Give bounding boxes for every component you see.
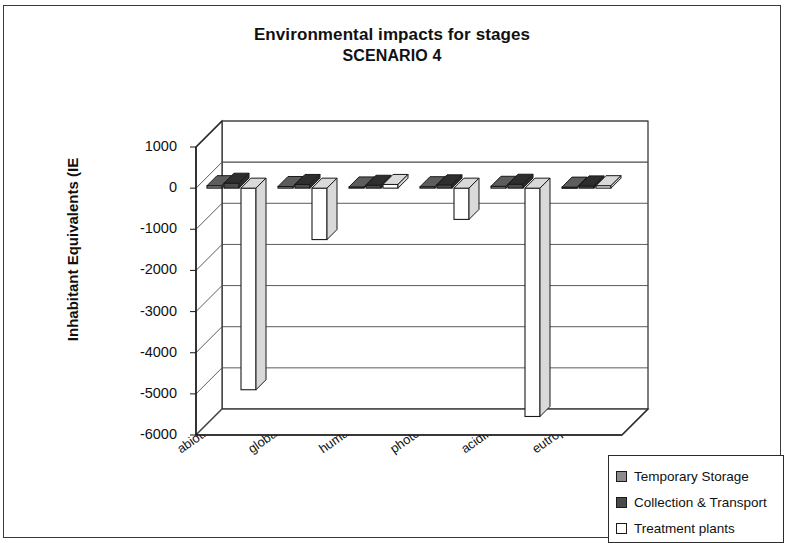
bar-front bbox=[312, 188, 327, 239]
bar-front bbox=[454, 188, 469, 219]
left-wall bbox=[196, 121, 222, 435]
legend-item[interactable]: Collection & Transport bbox=[616, 489, 777, 515]
bar-front bbox=[525, 188, 540, 416]
legend-swatch-icon bbox=[616, 523, 627, 534]
legend-item[interactable]: Temporary Storage bbox=[616, 463, 777, 489]
bar-front bbox=[383, 184, 398, 188]
legend-item[interactable]: Treatment plants bbox=[616, 515, 777, 541]
legend-label: Collection & Transport bbox=[634, 495, 767, 510]
chart-frame: Environmental impacts for stages SCENARI… bbox=[3, 5, 781, 538]
bar-side bbox=[256, 178, 266, 390]
chart-legend: Temporary StorageCollection & TransportT… bbox=[608, 455, 784, 543]
bar-front bbox=[241, 188, 256, 390]
legend-swatch-icon bbox=[616, 497, 627, 508]
legend-swatch-icon bbox=[616, 471, 627, 482]
legend-label: Treatment plants bbox=[634, 521, 735, 536]
bar-side bbox=[540, 178, 550, 416]
bar-front bbox=[508, 184, 523, 188]
bar-side bbox=[327, 178, 337, 239]
back-wall bbox=[222, 121, 648, 409]
legend-label: Temporary Storage bbox=[634, 469, 749, 484]
bar-front bbox=[295, 184, 310, 188]
bar-front bbox=[224, 183, 239, 188]
floor bbox=[196, 409, 648, 435]
